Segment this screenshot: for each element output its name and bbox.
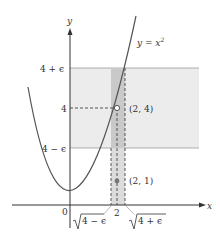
curve-label: y = x2	[136, 36, 164, 48]
origin-label: 0	[62, 207, 68, 217]
x-tick-sqrt-4-minus-eps: 4 − ϵ	[82, 216, 106, 226]
open-point-2-4	[114, 105, 119, 110]
x-tick-2: 2	[114, 208, 120, 218]
y-tick-4-plus-eps: 4 + ϵ	[40, 64, 64, 74]
y-tick-4: 4	[61, 104, 67, 114]
y-axis-arrow-icon	[68, 28, 73, 35]
point-label-2-1: (2, 1)	[129, 176, 153, 186]
limit-diagram: y x 0 y = x2 4 + ϵ 4 4 − ϵ (2, 4) (2, 1)…	[0, 0, 220, 235]
x-tick-sqrt-4-plus-eps: 4 + ϵ	[138, 216, 162, 226]
point-label-2-4: (2, 4)	[129, 104, 153, 114]
leader-sqrt-plus	[126, 206, 134, 214]
filled-point-2-1	[115, 179, 120, 184]
y-axis-label: y	[66, 16, 73, 26]
x-axis-label: x	[207, 201, 212, 211]
x-axis-arrow-icon	[199, 203, 206, 208]
leader-sqrt-minus	[104, 206, 111, 214]
delta-band-light	[111, 148, 125, 205]
y-tick-4-minus-eps: 4 − ϵ	[42, 144, 66, 154]
